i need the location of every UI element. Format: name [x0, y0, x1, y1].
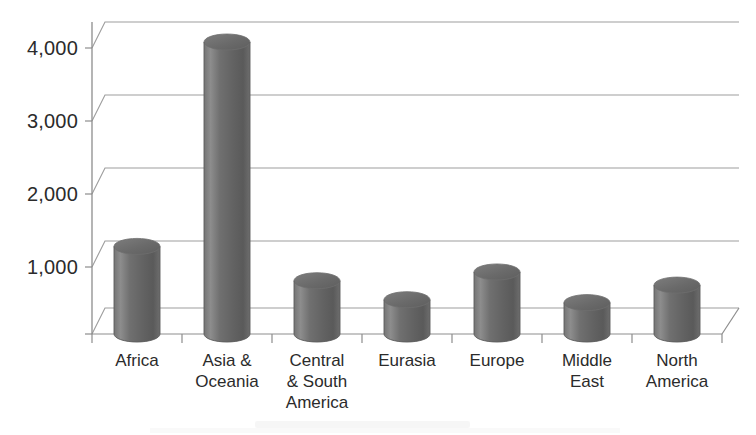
chart-gridlines — [92, 22, 739, 334]
x-axis-tick-label-line: Oceania — [182, 371, 272, 392]
chart-bar — [654, 277, 700, 342]
y-axis-tick-label: 2,000 — [4, 184, 78, 204]
y-axis-tick-label: 1,000 — [4, 257, 78, 277]
chart-bar — [114, 238, 160, 342]
chart-bar — [564, 295, 610, 342]
chart-bar — [204, 34, 250, 342]
chart-bar — [474, 264, 520, 342]
x-axis-tick-label-line: & South — [272, 371, 362, 392]
x-axis-tick-label-line: North — [632, 350, 722, 371]
x-axis-tick-label-line: Asia & — [182, 350, 272, 371]
scan-artifact — [150, 428, 620, 433]
x-axis-tick-label-line: Eurasia — [362, 350, 452, 371]
x-axis-tick-label: NorthAmerica — [632, 350, 722, 392]
x-axis-tick-label-line: America — [272, 392, 362, 413]
chart-floor — [92, 308, 739, 334]
y-axis-tick-label: 3,000 — [4, 111, 78, 131]
chart-container: 4,000 3,000 2,000 1,000 AfricaAsia &Ocea… — [0, 0, 756, 435]
x-axis-tick-label: Eurasia — [362, 350, 452, 371]
x-axis-tick-label: Africa — [92, 350, 182, 371]
chart-x-ticks — [92, 334, 722, 343]
x-axis-tick-label-line: Europe — [452, 350, 542, 371]
x-axis-tick-label: MiddleEast — [542, 350, 632, 392]
x-axis-tick-label-line: Africa — [92, 350, 182, 371]
chart-bar — [294, 273, 340, 342]
x-axis-tick-label-line: Middle — [542, 350, 632, 371]
x-axis-tick-label: Europe — [452, 350, 542, 371]
x-axis-tick-label: Central& SouthAmerica — [272, 350, 362, 413]
y-axis-tick-label: 4,000 — [4, 38, 78, 58]
chart-bar — [384, 292, 430, 342]
x-axis-tick-label: Asia &Oceania — [182, 350, 272, 392]
x-axis-tick-label-line: East — [542, 371, 632, 392]
x-axis-tick-label-line: Central — [272, 350, 362, 371]
scan-artifact — [255, 421, 470, 428]
chart-y-ticks — [85, 48, 92, 334]
x-axis-tick-label-line: America — [632, 371, 722, 392]
